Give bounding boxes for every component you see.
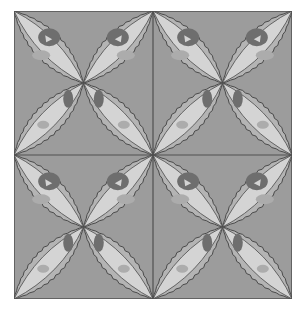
petal-blob [107,28,129,46]
quilt-pattern [14,11,292,299]
petal-blob [177,172,199,190]
petal-blob [202,90,212,108]
petal-blob [202,234,212,252]
petal-blob [233,234,243,252]
quilt-graphic [14,11,292,299]
petal-blob [63,234,73,252]
petal-blob [246,172,268,190]
petal-blob [177,28,199,46]
petal-blob [63,90,73,108]
petal-blob [107,172,129,190]
petal-blob [38,28,60,46]
petal-blob [246,28,268,46]
petal-blob [94,90,104,108]
petal-blob [233,90,243,108]
petal-blob [38,172,60,190]
petal-blob [94,234,104,252]
